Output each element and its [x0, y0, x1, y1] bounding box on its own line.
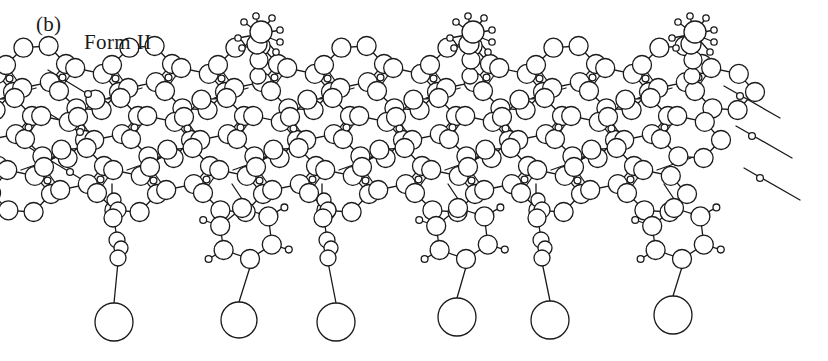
atom-circle [156, 82, 175, 101]
atom-circle [281, 108, 300, 127]
atom-circle [691, 207, 710, 226]
atom-circle [702, 59, 721, 78]
atom-circle [481, 15, 487, 21]
atom-circle [569, 37, 588, 56]
atom-circle [323, 89, 342, 108]
atom-circle [453, 19, 459, 25]
atom-circle [447, 35, 453, 41]
atom-circle [250, 68, 266, 84]
atom-circle [661, 124, 668, 131]
atom-circle [157, 181, 176, 200]
atom-circle [427, 217, 446, 236]
atom-circle [440, 130, 459, 149]
atom-circle [535, 89, 554, 108]
atom-circle [271, 74, 278, 81]
atom-circle [684, 21, 706, 43]
atom-circle [122, 130, 141, 149]
atom-circle [88, 184, 107, 203]
atom-circle [32, 107, 51, 126]
atom-circle [150, 177, 157, 184]
bond [664, 184, 674, 199]
atom-circle [350, 107, 369, 126]
form-label: Form II [84, 30, 152, 55]
atom-circle [6, 75, 13, 82]
atom-circle [370, 140, 389, 159]
atom-circle [0, 56, 16, 75]
atom-circle [85, 91, 92, 98]
atom-circle [589, 74, 596, 81]
atom-circle [309, 176, 316, 183]
atom-circle [757, 175, 764, 182]
atom-circle [669, 147, 688, 166]
atom-circle [596, 59, 615, 78]
atom-circle [421, 256, 428, 263]
atom-circle [59, 74, 66, 81]
atom-circle [421, 56, 440, 75]
atom-circle [489, 27, 495, 33]
atom-circle [581, 181, 600, 200]
bond [114, 262, 118, 303]
atom-circle [536, 75, 543, 82]
atom-circle [510, 90, 529, 109]
atom-circle [618, 184, 637, 203]
atom-circle [256, 177, 263, 184]
atom-circle [228, 130, 247, 149]
atom-circle [259, 207, 278, 226]
atom-circle [205, 256, 212, 263]
atom-circle [141, 158, 160, 177]
bond [448, 184, 458, 199]
atom-circle [562, 107, 581, 126]
atom-circle [654, 296, 692, 334]
atom-circle [729, 64, 748, 83]
atom-circle [277, 27, 283, 33]
atom-circle [0, 201, 18, 220]
atom-circle [451, 45, 457, 51]
atom-circle [669, 35, 675, 41]
atom-circle [369, 181, 388, 200]
atom-circle [580, 82, 599, 101]
atom-circle [0, 161, 17, 180]
atom-circle [607, 139, 626, 158]
atom-circle [528, 209, 546, 227]
atom-circle [14, 38, 33, 57]
atom-circle [546, 130, 565, 149]
atom-circle [673, 250, 692, 269]
atom-circle [103, 56, 122, 75]
atom-circle [342, 203, 361, 222]
atom-circle [712, 131, 731, 150]
atom-circle [686, 82, 705, 101]
bond [232, 184, 242, 199]
atom-circle [184, 125, 191, 132]
atom-circle [194, 184, 213, 203]
bond [457, 267, 466, 298]
atom-circle [462, 21, 484, 43]
atom-circle [314, 209, 332, 227]
atom-circle [599, 108, 618, 127]
atom-circle [416, 217, 423, 224]
atom-circle [24, 203, 43, 222]
atom-circle [531, 301, 569, 339]
atom-circle [273, 49, 279, 55]
atom-circle [687, 13, 693, 19]
bond [239, 267, 250, 302]
atom-circle [110, 250, 126, 266]
atom-circle [694, 235, 713, 254]
atom-circle [475, 181, 494, 200]
atom-circle [387, 108, 406, 127]
atom-circle [695, 112, 714, 131]
atom-circle [39, 37, 58, 56]
atom-circle [429, 89, 448, 108]
atom-circle [235, 35, 241, 41]
figure-panel: (b) Form II [0, 0, 828, 361]
atom-circle [684, 68, 700, 84]
atom-circle [534, 250, 550, 266]
atom-circle [459, 158, 478, 177]
atom-circle [77, 139, 96, 158]
atom-circle [521, 176, 528, 183]
atom-circle [35, 158, 54, 177]
atom-circle [203, 176, 210, 183]
atom-circle [746, 83, 765, 102]
atom-circle [218, 75, 225, 82]
atom-circle [449, 124, 456, 131]
atom-circle [501, 139, 520, 158]
